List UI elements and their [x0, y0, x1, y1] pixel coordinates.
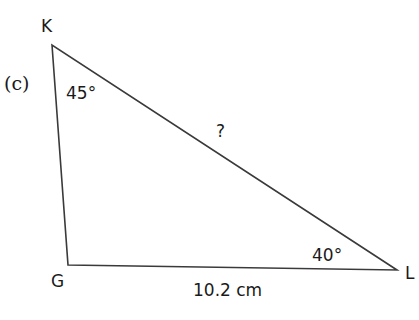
- part-label: (c): [4, 74, 29, 93]
- side-gl-label: 10.2 cm: [193, 282, 262, 299]
- side-kl-label: ?: [216, 123, 225, 140]
- angle-k-label: 45°: [66, 85, 96, 102]
- vertex-label-g: G: [51, 273, 64, 290]
- vertex-label-k: K: [41, 18, 52, 35]
- triangle-diagram: K G L (c) 45° 40° ? 10.2 cm: [0, 0, 419, 320]
- angle-l-label: 40°: [312, 247, 342, 264]
- vertex-label-l: L: [405, 265, 414, 282]
